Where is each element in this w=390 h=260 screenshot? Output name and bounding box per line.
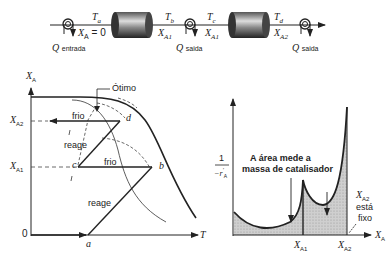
y-axis-label: XA xyxy=(26,71,36,83)
x-tick-XA2: XA2 xyxy=(338,240,351,252)
x-axis-label: T xyxy=(200,230,206,240)
point-a: a xyxy=(86,239,91,249)
point-b: b xyxy=(159,161,164,171)
area-note-line1: A área mede a xyxy=(250,154,311,163)
label-Tc: Tc xyxy=(207,12,216,25)
point-c: c xyxy=(72,160,76,170)
label-frio-top: frio xyxy=(72,112,85,121)
optimum-curve-1 xyxy=(97,103,125,118)
y-tick-XA1: XA1 xyxy=(10,161,23,173)
label-XA1-reactor1-out: XA1 xyxy=(158,28,172,41)
label-reage-bottom: reage xyxy=(88,199,111,208)
label-Q-outlet: Q saida xyxy=(292,43,318,53)
fixed-XA2-label: XA2 xyxy=(356,190,369,202)
inlet-heater-icon xyxy=(63,19,73,36)
y-tick-XA2: XA2 xyxy=(10,115,23,127)
label-Td: Td xyxy=(274,12,283,25)
label-XA1-reactor2-in: XA1 xyxy=(205,28,219,41)
label-Q-interstage: Q saida xyxy=(176,43,202,53)
label-Tb: Tb xyxy=(165,12,174,25)
x-tick-XA1: XA1 xyxy=(294,240,307,252)
diagram-canvas xyxy=(0,0,390,260)
point-d: d xyxy=(126,113,131,123)
label-Q-inlet: Q entrada xyxy=(52,43,85,53)
label-XA2-outlet: XA2 xyxy=(274,28,288,41)
interstage-cooler-icon xyxy=(185,19,195,36)
label-XA-inlet: XA = 0 xyxy=(78,28,106,40)
reactor-2-icon xyxy=(228,12,270,38)
outlet-cooler-icon xyxy=(300,19,310,36)
y-axis-numerator: 1 xyxy=(219,154,224,163)
label-Ta: Ta xyxy=(92,12,101,25)
right-x-axis-label: XA xyxy=(375,230,385,242)
label-reage-top: reage xyxy=(64,141,87,150)
label-frio-mid: frio xyxy=(104,158,117,167)
fixed-line1: está xyxy=(356,203,373,212)
area-note-line2: massa de catalisador xyxy=(242,165,333,174)
optimum-label: Ótimo xyxy=(112,84,136,93)
y-axis-denominator: −r′A xyxy=(214,167,227,179)
y-tick-zero: 0 xyxy=(22,229,28,239)
fixed-line2: fixo xyxy=(358,214,372,223)
rate-curve xyxy=(72,100,166,222)
reactor-1-icon xyxy=(111,12,153,38)
